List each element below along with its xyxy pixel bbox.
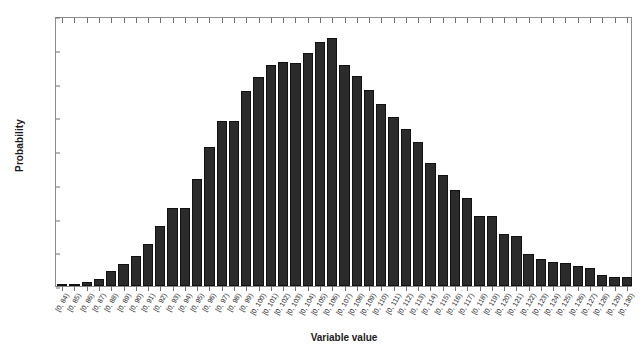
x-top-tick-mark (443, 18, 444, 23)
x-top-tick-mark (197, 18, 198, 23)
x-top-tick-mark (418, 18, 419, 23)
x-top-tick-mark (259, 18, 260, 23)
bar (438, 175, 448, 286)
bar (401, 129, 411, 286)
x-top-tick-mark (602, 18, 603, 23)
x-top-tick-mark (492, 18, 493, 23)
bar (253, 77, 263, 286)
bar (278, 62, 288, 286)
x-top-tick-mark (529, 18, 530, 23)
x-top-tick-mark (160, 18, 161, 23)
bar (315, 42, 325, 286)
x-top-tick-mark (271, 18, 272, 23)
chart-figure: Probability Variable value 00.010.020.03… (0, 0, 644, 353)
x-top-tick-mark (185, 18, 186, 23)
x-top-tick-mark (516, 18, 517, 23)
y-tick-mark (56, 119, 60, 120)
bar (229, 121, 239, 286)
bar (217, 121, 227, 286)
bar (204, 147, 214, 286)
x-top-tick-mark (369, 18, 370, 23)
y-tick-mark (56, 18, 60, 19)
y-tick-mark (56, 220, 60, 221)
y-tick-mark (56, 153, 60, 154)
x-top-tick-mark (332, 18, 333, 23)
x-top-tick-mark (111, 18, 112, 23)
x-top-tick-mark (504, 18, 505, 23)
x-top-tick-mark (565, 18, 566, 23)
bar (241, 91, 251, 286)
x-top-tick-mark (308, 18, 309, 23)
bar (303, 53, 313, 286)
y-tick-mark (56, 254, 60, 255)
x-axis-title: Variable value (55, 332, 633, 343)
x-top-tick-mark (467, 18, 468, 23)
x-top-tick-mark (209, 18, 210, 23)
x-top-tick-mark (173, 18, 174, 23)
bar (364, 90, 374, 286)
bar (388, 117, 398, 286)
x-top-tick-mark (627, 18, 628, 23)
x-top-tick-mark (148, 18, 149, 23)
x-top-tick-mark (357, 18, 358, 23)
x-top-tick-mark (320, 18, 321, 23)
x-top-tick-mark (480, 18, 481, 23)
bar (192, 179, 202, 286)
x-top-tick-mark (295, 18, 296, 23)
x-top-tick-mark (62, 18, 63, 23)
plot-area (55, 17, 632, 287)
x-tick-mark (62, 286, 63, 291)
x-top-tick-mark (283, 18, 284, 23)
x-top-tick-mark (246, 18, 247, 23)
bar (376, 104, 386, 286)
bar (339, 65, 349, 286)
x-top-tick-mark (345, 18, 346, 23)
x-top-tick-mark (590, 18, 591, 23)
x-top-tick-mark (394, 18, 395, 23)
x-top-tick-mark (234, 18, 235, 23)
x-top-tick-mark (615, 18, 616, 23)
bar (266, 65, 276, 286)
x-top-tick-mark (406, 18, 407, 23)
x-top-tick-mark (87, 18, 88, 23)
bar (413, 142, 423, 286)
bar (327, 38, 337, 286)
x-top-tick-mark (136, 18, 137, 23)
x-top-tick-mark (74, 18, 75, 23)
y-tick-mark (56, 288, 60, 289)
x-top-tick-mark (455, 18, 456, 23)
y-axis-title: Probability (14, 96, 25, 196)
bar (352, 76, 362, 286)
x-top-tick-mark (222, 18, 223, 23)
bar (290, 63, 300, 286)
x-top-tick-mark (124, 18, 125, 23)
x-top-tick-mark (553, 18, 554, 23)
x-top-tick-mark (430, 18, 431, 23)
x-top-tick-mark (381, 18, 382, 23)
y-tick-mark (56, 51, 60, 52)
x-top-tick-mark (99, 18, 100, 23)
y-tick-mark (56, 186, 60, 187)
y-tick-mark (56, 85, 60, 86)
bar (425, 163, 435, 286)
x-top-tick-mark (578, 18, 579, 23)
x-top-tick-mark (541, 18, 542, 23)
bar (450, 190, 460, 286)
